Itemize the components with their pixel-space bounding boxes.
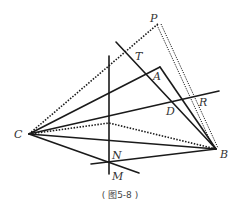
label-P: P (149, 12, 158, 25)
line-CM (29, 134, 139, 173)
dotted-PB-inner (157, 25, 214, 149)
figure-caption: ( 图5-8 ) (102, 190, 138, 200)
label-A: A (152, 70, 161, 83)
label-N: N (111, 149, 122, 162)
dotted-CP (29, 23, 159, 134)
label-R: R (198, 96, 207, 109)
geometry-figure: P T A D R C B N M ( 图5-8 ) (0, 0, 240, 221)
label-M: M (111, 170, 124, 183)
label-D: D (165, 105, 175, 118)
segment-CB (29, 134, 216, 149)
segment-CA (29, 67, 160, 134)
label-C: C (14, 128, 23, 141)
dotted-PB-outer (161, 24, 218, 148)
label-B: B (219, 148, 228, 161)
label-T: T (135, 50, 144, 63)
